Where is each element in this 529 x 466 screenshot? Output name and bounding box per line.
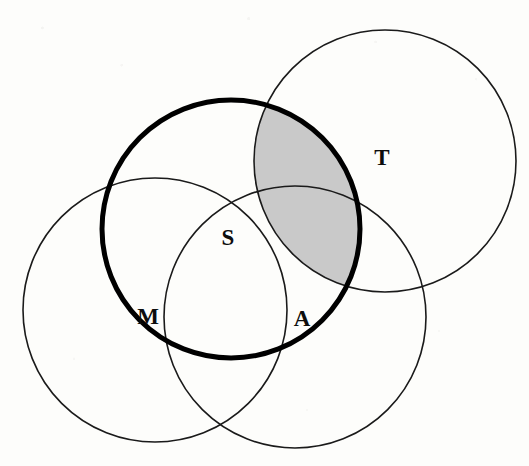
set-label-M: M bbox=[137, 305, 159, 328]
set-label-A: A bbox=[294, 307, 311, 330]
venn-canvas bbox=[0, 0, 529, 466]
venn-diagram-figure: M S A T bbox=[0, 0, 529, 466]
set-label-T: T bbox=[374, 146, 389, 169]
set-label-S: S bbox=[222, 226, 235, 249]
